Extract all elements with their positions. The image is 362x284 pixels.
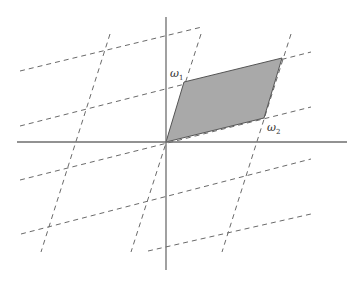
omega1-symbol: ω — [170, 67, 179, 80]
omega2-symbol: ω — [267, 121, 276, 134]
omega1-subscript: 1 — [179, 74, 183, 82]
omega2-label: ω2 — [267, 122, 280, 136]
lattice-line-omega1-direction — [41, 34, 110, 252]
lattice-line-omega2-direction — [148, 214, 311, 251]
omega1-label: ω1 — [170, 68, 183, 82]
lattice-line-omega2-direction — [20, 27, 202, 71]
lattice-diagram: ω1 ω2 — [0, 0, 362, 284]
lattice-canvas — [0, 0, 362, 284]
omega2-subscript: 2 — [276, 128, 280, 136]
